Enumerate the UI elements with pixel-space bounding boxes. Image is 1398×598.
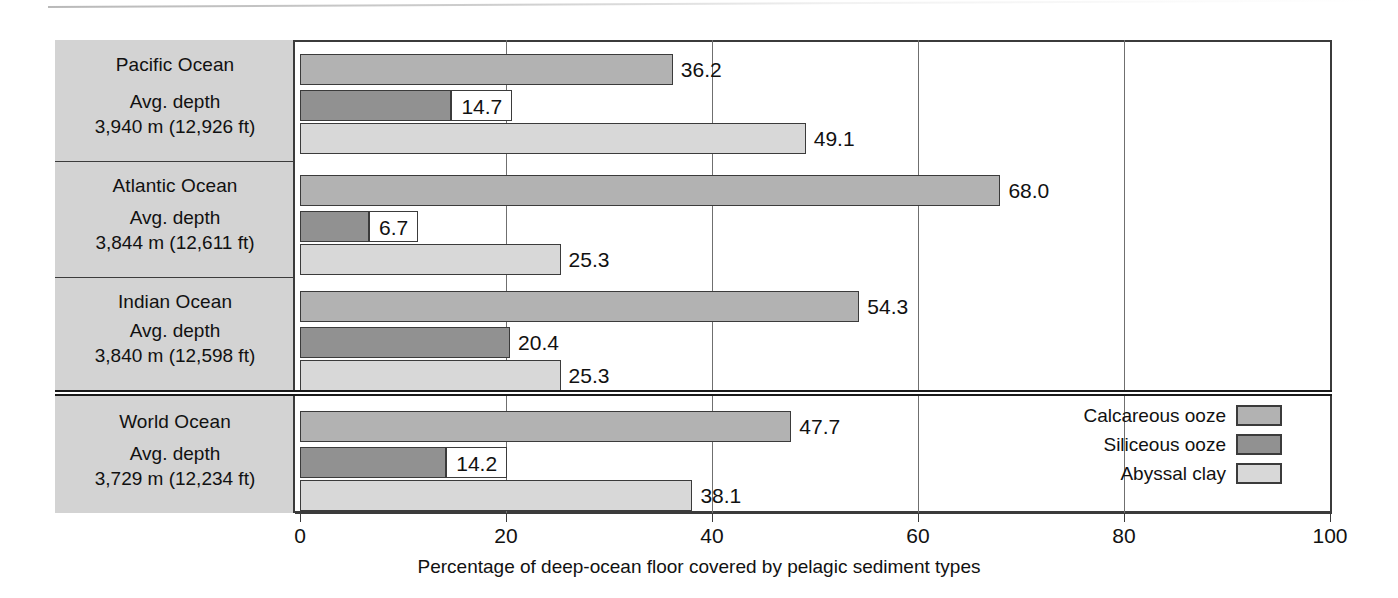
bar-clay[interactable] <box>300 244 561 275</box>
bar-value-label: 14.2 <box>446 447 507 478</box>
x-axis-line <box>295 513 1332 514</box>
chart-canvas: Pacific OceanAvg. depth3,940 m (12,926 f… <box>0 0 1398 598</box>
category-row-4: World OceanAvg. depth3,729 m (12,234 ft) <box>55 397 295 513</box>
bar-sil[interactable] <box>300 327 510 358</box>
x-tick-label-40: 40 <box>700 524 723 548</box>
legend-label: Abyssal clay <box>1120 463 1226 485</box>
bar-clay[interactable] <box>300 123 806 154</box>
x-tick-20 <box>506 513 507 522</box>
ocean-name: World Ocean <box>119 411 231 433</box>
x-tick-label-60: 60 <box>906 524 929 548</box>
x-tick-label-0: 0 <box>294 524 306 548</box>
bar-value-label: 25.3 <box>561 244 610 275</box>
bar-calc[interactable] <box>300 175 1000 206</box>
category-divider <box>55 161 295 162</box>
x-tick-label-100: 100 <box>1312 524 1347 548</box>
bar-value-label: 68.0 <box>1000 175 1049 206</box>
legend-swatch-sil <box>1236 434 1282 455</box>
world-ocean-separator <box>55 390 1332 396</box>
bar-calc[interactable] <box>300 291 859 322</box>
bar-value-label: 38.1 <box>692 480 741 511</box>
bar-sil[interactable] <box>300 90 451 121</box>
bar-value-label: 49.1 <box>806 123 855 154</box>
avg-depth-block: Avg. depth3,840 m (12,598 ft) <box>95 318 256 368</box>
avg-depth-block: Avg. depth3,729 m (12,234 ft) <box>95 441 256 491</box>
bar-sil[interactable] <box>300 211 369 242</box>
avg-depth-value: 3,940 m (12,926 ft) <box>95 114 256 139</box>
x-tick-40 <box>712 513 713 522</box>
x-tick-60 <box>918 513 919 522</box>
bar-group-row-1: 36.214.749.1 <box>295 40 1332 161</box>
category-panel: Pacific OceanAvg. depth3,940 m (12,926 f… <box>55 40 295 513</box>
legend-swatch-clay <box>1236 463 1282 484</box>
x-tick-label-20: 20 <box>494 524 517 548</box>
legend-label: Calcareous ooze <box>1083 405 1226 427</box>
avg-depth-value: 3,729 m (12,234 ft) <box>95 466 256 491</box>
bar-value-label: 47.7 <box>791 411 840 442</box>
avg-depth-caption: Avg. depth <box>95 89 256 114</box>
x-tick-label-80: 80 <box>1112 524 1135 548</box>
bar-group-row-3: 54.320.425.3 <box>295 277 1332 390</box>
ocean-name: Atlantic Ocean <box>113 175 238 197</box>
bar-value-label: 6.7 <box>369 211 418 242</box>
bar-value-label: 36.2 <box>673 54 722 85</box>
avg-depth-block: Avg. depth3,844 m (12,611 ft) <box>95 205 254 255</box>
avg-depth-caption: Avg. depth <box>95 205 254 230</box>
category-row-1: Pacific OceanAvg. depth3,940 m (12,926 f… <box>55 40 295 161</box>
scan-artifact-line <box>48 0 1378 8</box>
avg-depth-caption: Avg. depth <box>95 441 256 466</box>
bar-value-label: 20.4 <box>510 327 559 358</box>
category-divider <box>55 277 295 278</box>
legend-item-calc[interactable]: Calcareous ooze <box>1020 402 1282 429</box>
bar-value-label: 25.3 <box>561 360 610 391</box>
legend-item-clay[interactable]: Abyssal clay <box>1020 460 1282 487</box>
category-row-2: Atlantic OceanAvg. depth3,844 m (12,611 … <box>55 161 295 277</box>
avg-depth-caption: Avg. depth <box>95 318 256 343</box>
ocean-name: Indian Ocean <box>118 291 232 313</box>
legend-item-sil[interactable]: Siliceous ooze <box>1020 431 1282 458</box>
ocean-name: Pacific Ocean <box>116 54 235 76</box>
bar-clay[interactable] <box>300 360 561 391</box>
avg-depth-value: 3,840 m (12,598 ft) <box>95 343 256 368</box>
bar-value-label: 54.3 <box>859 291 908 322</box>
bar-sil[interactable] <box>300 447 446 478</box>
legend-label: Siliceous ooze <box>1103 434 1226 456</box>
x-tick-100 <box>1330 513 1331 522</box>
avg-depth-block: Avg. depth3,940 m (12,926 ft) <box>95 89 256 139</box>
bar-calc[interactable] <box>300 411 791 442</box>
bar-calc[interactable] <box>300 54 673 85</box>
bar-group-row-2: 68.06.725.3 <box>295 161 1332 277</box>
bar-clay[interactable] <box>300 480 692 511</box>
legend: Calcareous oozeSiliceous oozeAbyssal cla… <box>1020 402 1282 489</box>
x-tick-80 <box>1124 513 1125 522</box>
bar-value-label: 14.7 <box>451 90 512 121</box>
category-row-3: Indian OceanAvg. depth3,840 m (12,598 ft… <box>55 277 295 390</box>
x-axis-title: Percentage of deep-ocean floor covered b… <box>0 556 1398 578</box>
x-tick-0 <box>300 513 301 522</box>
legend-swatch-calc <box>1236 405 1282 426</box>
avg-depth-value: 3,844 m (12,611 ft) <box>95 230 254 255</box>
